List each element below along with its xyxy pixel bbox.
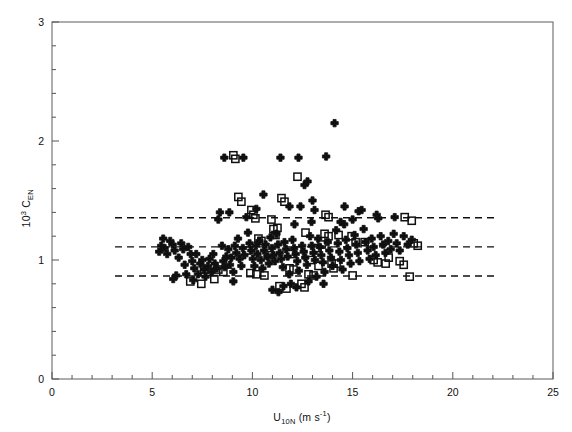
data-point-cross [294,257,301,264]
data-point-cross [289,236,296,243]
data-point-cross [308,218,315,225]
data-point-cross [243,213,250,220]
data-point-cross [345,252,352,259]
data-point-cross [341,203,348,210]
data-point-cross [277,154,284,161]
data-point-cross [390,230,397,237]
y-axis-title: 103 CEN [19,163,36,253]
data-point-cross [344,244,351,251]
data-point-cross [309,197,316,204]
data-point-cross [349,216,356,223]
data-point-cross [160,235,167,242]
x-tick-label: 5 [149,386,155,398]
y-tick-label: 1 [38,254,44,266]
x-tick-label: 25 [547,386,559,398]
data-point-cross [291,221,298,228]
data-point-cross [189,257,196,264]
data-point-cross [356,257,363,264]
data-point-cross [391,213,398,220]
data-point-cross [326,247,333,254]
x-tick-label: 15 [347,386,359,398]
data-point-cross [230,278,237,285]
data-point-cross [251,262,258,269]
x-axis-title: U10N (m s-1) [202,409,402,426]
data-point-cross [311,206,318,213]
data-point-square [294,173,301,180]
data-point-cross [322,153,329,160]
x-tick-label: 0 [49,386,55,398]
data-point-cross [336,248,343,255]
plot-border [52,22,553,379]
data-point-cross [318,252,325,259]
data-point-cross [215,216,222,223]
data-point-cross [354,249,361,256]
x-tick-label: 20 [447,386,459,398]
data-point-cross [183,271,190,278]
plot-frame [52,22,553,379]
data-point-cross [297,203,304,210]
axis-ticks [52,22,553,379]
data-point-cross [295,154,302,161]
data-point-cross [400,233,407,240]
data-point-cross [320,280,327,287]
data-points [156,119,422,295]
y-tick-label: 0 [38,373,44,385]
data-point-cross [230,268,237,275]
x-tick-label: 10 [247,386,259,398]
data-point-square [198,280,205,287]
data-point-cross [181,261,188,268]
data-point-cross [393,240,400,247]
data-point-cross [193,250,200,257]
data-point-cross [396,247,403,254]
data-point-cross [240,154,247,161]
scatter-plot-figure: 05101520250123 103 CEN U10N (m s-1) [0,0,572,432]
data-point-cross [175,254,182,261]
data-point-cross [260,191,267,198]
y-tick-label: 2 [38,135,44,147]
data-point-cross [226,209,233,216]
data-point-cross [331,119,338,126]
data-point-cross [244,229,251,236]
data-point-cross [238,262,245,269]
data-point-square [268,216,275,223]
data-point-cross [249,255,256,262]
plot-canvas: 05101520250123 [0,0,572,432]
data-point-cross [347,260,354,267]
data-point-cross [334,240,341,247]
data-point-cross [377,233,384,240]
data-point-cross [332,227,339,234]
data-point-cross [221,154,228,161]
data-point-cross [286,203,293,210]
data-point-cross [234,235,241,242]
data-point-cross [360,225,367,232]
y-tick-label: 3 [38,16,44,28]
data-point-cross [216,209,223,216]
